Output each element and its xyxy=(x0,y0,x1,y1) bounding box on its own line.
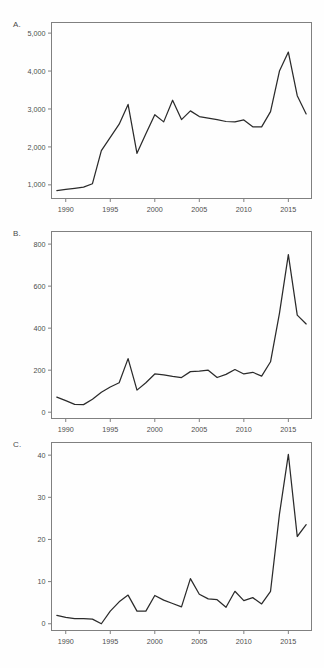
x-tick-label: 2010 xyxy=(236,205,252,214)
y-tick-label: 600 xyxy=(34,282,46,291)
y-tick-label: 10 xyxy=(38,577,46,586)
y-tick-label: 2,000 xyxy=(28,143,46,152)
plot-frame xyxy=(52,443,312,631)
y-tick-label: 40 xyxy=(38,451,46,460)
x-tick-label: 2015 xyxy=(280,637,296,646)
y-tick-label: 4,000 xyxy=(28,67,46,76)
x-tick-label: 1995 xyxy=(102,425,118,434)
y-tick-label: 800 xyxy=(34,240,46,249)
y-tick-label: 400 xyxy=(34,324,46,333)
x-tick-label: 2000 xyxy=(147,205,163,214)
plot-area-a: 1,0002,0003,0004,0005,000199019952000200… xyxy=(0,0,324,222)
x-tick-label: 1995 xyxy=(102,205,118,214)
x-tick-label: 2010 xyxy=(236,637,252,646)
x-tick-label: 1990 xyxy=(58,637,74,646)
series-line xyxy=(57,52,306,190)
plot-frame xyxy=(52,232,312,419)
y-tick-label: 20 xyxy=(38,535,46,544)
x-tick-label: 1990 xyxy=(58,425,74,434)
plot-area-b: 0200400600800199019952000200520102015 xyxy=(0,222,324,444)
three-panel-line-chart-figure: A. 1,0002,0003,0004,0005,000199019952000… xyxy=(0,0,324,668)
y-tick-label: 0 xyxy=(42,408,46,417)
x-tick-label: 2000 xyxy=(147,637,163,646)
x-tick-label: 2005 xyxy=(191,205,207,214)
x-tick-label: 1995 xyxy=(102,637,118,646)
x-tick-label: 2015 xyxy=(280,205,296,214)
series-line xyxy=(57,255,306,405)
y-tick-label: 1,000 xyxy=(28,180,46,189)
y-tick-label: 200 xyxy=(34,366,46,375)
x-tick-label: 2005 xyxy=(191,637,207,646)
x-tick-label: 2015 xyxy=(280,425,296,434)
x-tick-label: 2010 xyxy=(236,425,252,434)
x-tick-label: 2005 xyxy=(191,425,207,434)
chart-panel-b: B. 0200400600800199019952000200520102015 xyxy=(0,222,324,444)
chart-panel-a: A. 1,0002,0003,0004,0005,000199019952000… xyxy=(0,0,324,222)
y-tick-label: 3,000 xyxy=(28,105,46,114)
chart-panel-c: C. 010203040199019952000200520102015 xyxy=(0,436,324,668)
x-tick-label: 1990 xyxy=(58,205,74,214)
y-tick-label: 5,000 xyxy=(28,29,46,38)
plot-frame xyxy=(52,23,312,199)
plot-area-c: 010203040199019952000200520102015 xyxy=(0,436,324,668)
y-tick-label: 0 xyxy=(42,619,46,628)
x-tick-label: 2000 xyxy=(147,425,163,434)
series-line xyxy=(57,454,306,623)
y-tick-label: 30 xyxy=(38,493,46,502)
